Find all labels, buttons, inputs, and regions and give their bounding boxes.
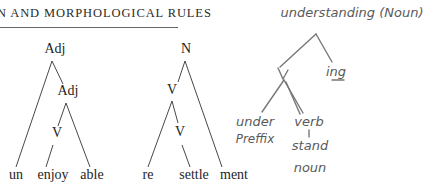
tree2-leaf-ment: ment (220, 167, 248, 183)
tree1-leaf-un: un (9, 167, 23, 183)
tree2-leaf-settle: settle (179, 167, 209, 183)
tree1-leaf-able: able (80, 167, 103, 183)
handwritten-stem-label: noun (294, 160, 327, 175)
tree1-inner-adj: Adj (58, 83, 79, 99)
tree1-root-adj: Adj (45, 41, 66, 57)
tree2-inner-v: V (167, 82, 177, 98)
tree2-root-n: N (181, 41, 191, 57)
tree2-leaf-re: re (143, 167, 154, 183)
tree1-verb: V (52, 125, 62, 141)
handwritten-prefix-under: under (236, 114, 274, 129)
handwritten-verb-label: verb (294, 114, 323, 129)
morphology-figure: N AND MORPHOLOGICAL RULES (0, 0, 430, 186)
handwritten-suffix-ing: ing (326, 64, 346, 79)
handwritten-stem-stand: stand (292, 138, 328, 153)
tree1-leaf-enjoy: enjoy (37, 167, 68, 183)
handwritten-title: understanding (Noun) (281, 5, 424, 20)
tree2-verb: V (175, 124, 185, 140)
handwritten-prefix-label: Preffix (236, 132, 275, 146)
